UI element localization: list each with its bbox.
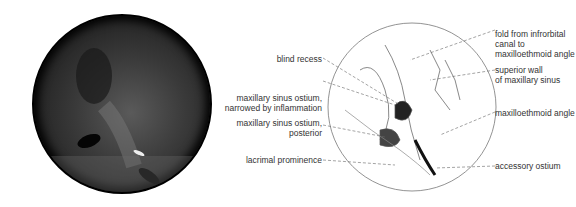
label-accessory-ostium: accessory ostium — [495, 161, 561, 171]
label-maxillary-sinus-ostium-posterior: maxillary sinus ostium, posterior — [237, 118, 323, 138]
label-line: fold from infrorbital — [495, 29, 575, 39]
label-line: accessory ostium — [495, 161, 561, 171]
label-line: of maxillary sinus — [495, 75, 560, 85]
label-lacrimal-prominence: lacrimal prominence — [246, 155, 322, 165]
label-line: lacrimal prominence — [246, 155, 322, 165]
label-blind-recess: blind recess — [277, 54, 322, 64]
label-maxillary-sinus-ostium-narrowed: maxillary sinus ostium, narrowed by infl… — [225, 93, 322, 113]
label-line: maxilloethmoid angle — [495, 49, 575, 59]
label-line: maxillary sinus ostium, — [237, 118, 323, 128]
label-line: superior wall — [495, 65, 560, 75]
label-line: posterior — [237, 128, 323, 138]
label-line: maxilloethmoid angle — [495, 108, 575, 118]
label-line: narrowed by inflammation — [225, 103, 322, 113]
label-line: maxillary sinus ostium, — [225, 93, 322, 103]
label-superior-wall: superior wall of maxillary sinus — [495, 65, 560, 85]
label-line: blind recess — [277, 54, 322, 64]
label-fold-from-infrorbital: fold from infrorbital canal to maxilloet… — [495, 29, 575, 59]
label-maxilloethmoid-angle: maxilloethmoid angle — [495, 108, 575, 118]
label-line: canal to — [495, 39, 575, 49]
